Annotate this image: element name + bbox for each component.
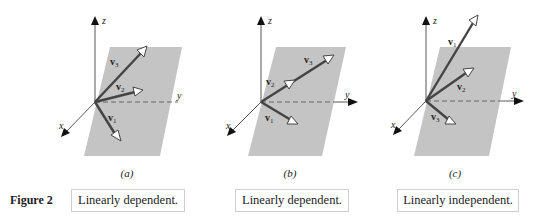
panel-b-statement: Linearly dependent. [235,189,349,212]
panel-c-statement: Linearly independent. [397,189,519,212]
x-axis-label: x [58,120,64,131]
panel-a-diagram: z y x v3 v2 v1 [58,15,182,156]
panel-a-statement: Linearly dependent. [71,189,185,212]
panel-a-caption: (a) [107,167,147,179]
figure-label: Figure 2 [10,193,53,208]
x-axis-label: x [225,120,231,131]
z-arrow-icon [257,16,265,25]
y-axis-label: y [344,89,350,100]
panel-c-caption: (c) [435,167,475,179]
z-arrow-icon [422,16,430,25]
z-axis-label: z [432,15,437,26]
y-arrow-icon [348,98,358,106]
panel-b-caption: (b) [270,167,310,179]
panel-b-diagram: z y x v3 v2 v1 [225,15,358,156]
z-axis-label: z [267,15,272,26]
z-axis-label: z [101,15,106,26]
z-arrow-icon [91,16,99,25]
panel-c-diagram: z y x v1 v2 v3 [390,15,524,156]
figure-diagrams: z y x v3 v2 v1 z y x v3 [0,0,549,217]
y-axis-label: y [511,88,517,99]
y-axis-label: y [176,90,182,101]
vector-arrow-icon [469,15,478,26]
x-axis-label: x [390,119,396,130]
